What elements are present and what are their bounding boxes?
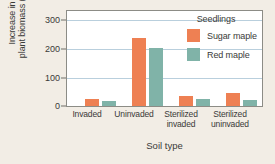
bar-chart-figure: Increase in plant biomass (%) 300 200 10… — [0, 0, 275, 164]
bar-red-maple-sterilized-uninvaded — [243, 100, 257, 106]
legend-item-sugar-maple: Sugar maple — [169, 29, 263, 42]
legend-swatch-sugar-maple — [187, 29, 200, 42]
bar-red-maple-uninvaded — [149, 48, 163, 107]
x-tick-label-sterilized-uninvaded: Sterilized uninvaded — [200, 110, 260, 129]
bar-red-maple-sterilized-invaded — [196, 99, 210, 106]
legend-label-red-maple: Red maple — [207, 50, 250, 60]
bar-sugar-maple-uninvaded — [132, 38, 146, 106]
legend: Seedlings Sugar maple Red maple — [169, 14, 263, 67]
y-tick-label-200: 200 — [34, 44, 60, 54]
plot-area: Seedlings Sugar maple Red maple — [66, 10, 263, 107]
y-tick-label-300: 300 — [34, 15, 60, 25]
bar-sugar-maple-invaded — [85, 99, 99, 106]
y-axis-title: Increase in plant biomass (%) — [2, 0, 32, 73]
legend-title: Seedlings — [169, 14, 263, 24]
bar-red-maple-invaded — [102, 101, 116, 106]
legend-label-sugar-maple: Sugar maple — [207, 31, 257, 41]
legend-swatch-red-maple — [187, 48, 200, 61]
y-tick-label-100: 100 — [34, 73, 60, 83]
gridline-100 — [67, 78, 262, 79]
legend-item-red-maple: Red maple — [169, 48, 263, 61]
bar-sugar-maple-sterilized-invaded — [179, 96, 193, 106]
y-tick-label-0: 0 — [34, 101, 60, 111]
x-axis-title: Soil type — [66, 140, 263, 151]
bar-sugar-maple-sterilized-uninvaded — [226, 93, 240, 106]
